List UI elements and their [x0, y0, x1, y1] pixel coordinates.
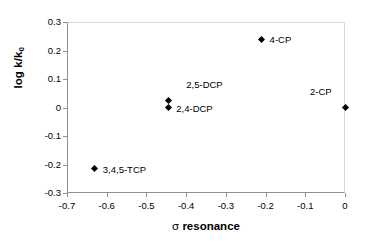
y-axis-tick-mark: [63, 79, 67, 80]
y-axis-title-subscript: 0: [17, 47, 26, 52]
x-axis-title-text: resonance: [182, 220, 240, 232]
y-axis-tick-label: 0: [31, 103, 61, 113]
y-axis-tick-label: -0.3: [31, 188, 61, 198]
x-axis-tick-mark: [67, 193, 68, 197]
x-axis-tick-label: -0.7: [47, 201, 87, 211]
y-axis-tick-mark: [63, 136, 67, 137]
x-axis-tick-label: -0.1: [285, 201, 325, 211]
x-axis-tick-label: 0: [325, 201, 365, 211]
sigma-symbol: σ: [172, 220, 179, 232]
x-axis-tick-label: -0.4: [166, 201, 206, 211]
y-axis-tick-label: 0.2: [31, 46, 61, 56]
data-point-label: 3,4,5-TCP: [103, 165, 146, 175]
y-axis-tick-label: 0.3: [31, 17, 61, 27]
x-axis-tick-label: -0.2: [246, 201, 286, 211]
x-axis-tick-label: -0.6: [87, 201, 127, 211]
y-axis-title: log k/k0: [13, 13, 25, 123]
data-point-label: 2-CP: [310, 87, 332, 97]
y-axis-tick-mark: [63, 22, 67, 23]
y-axis-tick-label: 0.1: [31, 74, 61, 84]
y-axis-tick-mark: [63, 108, 67, 109]
data-point-label: 2,5-DCP: [186, 80, 222, 90]
y-axis-tick-mark: [63, 51, 67, 52]
y-axis-tick-label: -0.1: [31, 131, 61, 141]
x-axis-tick-mark: [186, 193, 187, 197]
x-axis-tick-label: -0.3: [206, 201, 246, 211]
x-axis-tick-mark: [107, 193, 108, 197]
x-axis-tick-mark: [146, 193, 147, 197]
x-axis-tick-mark: [226, 193, 227, 197]
y-axis-title-text: log k/k: [12, 51, 24, 88]
data-point-label: 2,4-DCP: [176, 104, 212, 114]
x-axis-tick-mark: [305, 193, 306, 197]
x-axis-tick-mark: [266, 193, 267, 197]
x-axis-title: σ resonance: [67, 221, 345, 233]
x-axis-tick-label: -0.5: [126, 201, 166, 211]
x-axis-tick-mark: [345, 193, 346, 197]
scatter-chart: log k/k0 0.30.20.10-0.1-0.2-0.3-0.7-0.6-…: [0, 0, 368, 244]
data-point-label: 4-CP: [270, 35, 292, 45]
y-axis-tick-label: -0.2: [31, 160, 61, 170]
y-axis-tick-mark: [63, 165, 67, 166]
